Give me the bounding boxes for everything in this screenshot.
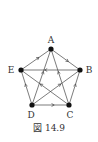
- edge-E-A: [21, 49, 51, 70]
- edge-C-E: [21, 70, 69, 105]
- vertex-label-D: D: [27, 111, 34, 120]
- edge-C-B: [69, 70, 80, 105]
- edge-D-E: [21, 70, 32, 105]
- edge-B-E: [21, 69, 80, 72]
- vertex-A: [48, 46, 53, 51]
- vertex-B: [77, 67, 82, 72]
- edge-D-B: [32, 70, 80, 105]
- vertex-label-B: B: [86, 66, 93, 75]
- edge-D-C: [32, 104, 69, 107]
- vertex-E: [18, 67, 23, 72]
- vertex-label-E: E: [8, 66, 15, 75]
- vertex-D: [29, 102, 34, 107]
- edge-A-B: [51, 49, 80, 70]
- figure-caption: 図 14.9: [0, 121, 98, 134]
- edge-D-A: [32, 49, 51, 105]
- vertex-label-C: C: [67, 111, 74, 120]
- vertex-C: [66, 102, 71, 107]
- vertex-label-A: A: [48, 36, 55, 45]
- edge-C-A: [51, 49, 69, 105]
